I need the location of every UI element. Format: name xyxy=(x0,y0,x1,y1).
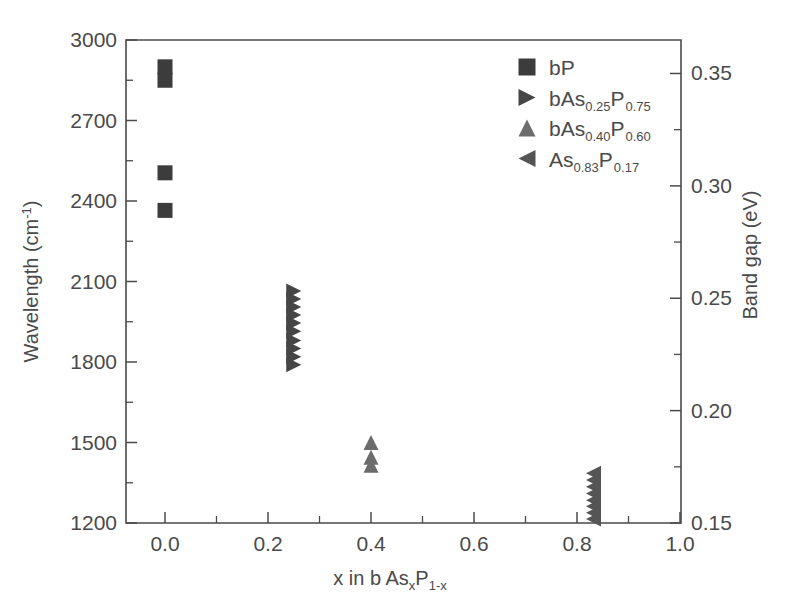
y-axis-left-tick-label: 2100 xyxy=(70,270,117,293)
chart-figure: 30002700240021001800150012000.350.300.25… xyxy=(0,0,787,602)
x-axis-tick-label: 0.2 xyxy=(253,532,282,555)
plot-background xyxy=(0,0,787,602)
data-point-marker xyxy=(158,73,173,88)
x-axis-tick-label: 0.0 xyxy=(150,532,179,555)
y-axis-right-tick-label: 0.15 xyxy=(691,511,732,534)
legend-label: bP xyxy=(549,56,575,79)
y-axis-left-tick-label: 1500 xyxy=(70,431,117,454)
data-point-marker xyxy=(158,203,173,218)
legend-marker xyxy=(519,59,536,76)
x-axis-tick-label: 0.6 xyxy=(459,532,488,555)
data-point-marker xyxy=(158,165,173,180)
y-axis-left-tick-label: 1800 xyxy=(70,350,117,373)
x-axis-tick-label: 1.0 xyxy=(665,532,694,555)
y-axis-right-label: Band gap (eV) xyxy=(739,191,761,320)
y-axis-right-tick-label: 0.25 xyxy=(691,286,732,309)
data-point-marker xyxy=(158,59,173,74)
y-axis-left-tick-label: 2700 xyxy=(70,109,117,132)
x-axis-tick-label: 0.4 xyxy=(356,532,386,555)
y-axis-right-tick-label: 0.35 xyxy=(691,61,732,84)
y-axis-left-label: Wavelength (cm-1) xyxy=(19,201,42,363)
y-axis-left-tick-label: 3000 xyxy=(70,28,117,51)
y-axis-right-tick-label: 0.20 xyxy=(691,399,732,422)
x-axis-tick-label: 0.8 xyxy=(562,532,591,555)
scatter-plot-svg: 30002700240021001800150012000.350.300.25… xyxy=(0,0,787,602)
y-axis-left-tick-label: 2400 xyxy=(70,189,117,212)
y-axis-left-tick-label: 1200 xyxy=(70,511,117,534)
y-axis-right-tick-label: 0.30 xyxy=(691,174,732,197)
